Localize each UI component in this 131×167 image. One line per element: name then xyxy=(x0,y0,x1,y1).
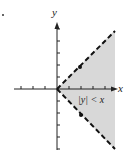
x-axis-label: x xyxy=(118,83,123,94)
y-axis-label: y xyxy=(52,7,57,18)
stray-mark xyxy=(2,14,4,16)
point-upper xyxy=(78,65,82,69)
y-axis-arrow-icon xyxy=(55,22,60,29)
shaded-region xyxy=(57,30,115,150)
point-lower xyxy=(79,113,83,117)
inequality-graph xyxy=(0,0,131,167)
region-label: |y| < x xyxy=(78,95,104,105)
